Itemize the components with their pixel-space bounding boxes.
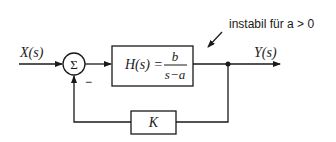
annotation-arrow bbox=[208, 32, 222, 47]
plant-denominator: s−a bbox=[165, 67, 186, 82]
plant-lhs: H(s) = bbox=[124, 57, 163, 73]
plant-numerator: b bbox=[172, 49, 179, 64]
feedback-sign: − bbox=[85, 75, 92, 89]
output-label: Y(s) bbox=[254, 45, 277, 61]
sum-symbol: Σ bbox=[70, 57, 78, 72]
feedback-gain-block: K bbox=[131, 111, 176, 134]
input-label: X(s) bbox=[19, 45, 44, 61]
summing-junction: Σ bbox=[63, 53, 85, 75]
instability-annotation: instabil für a > 0 bbox=[229, 17, 314, 31]
plant-block: H(s) = b s−a bbox=[112, 46, 193, 86]
feedback-gain-label: K bbox=[148, 115, 159, 130]
block-diagram: X(s) Σ − H(s) = b s−a Y(s) K instabil fü… bbox=[0, 0, 336, 142]
feedback-line-left bbox=[74, 76, 131, 122]
